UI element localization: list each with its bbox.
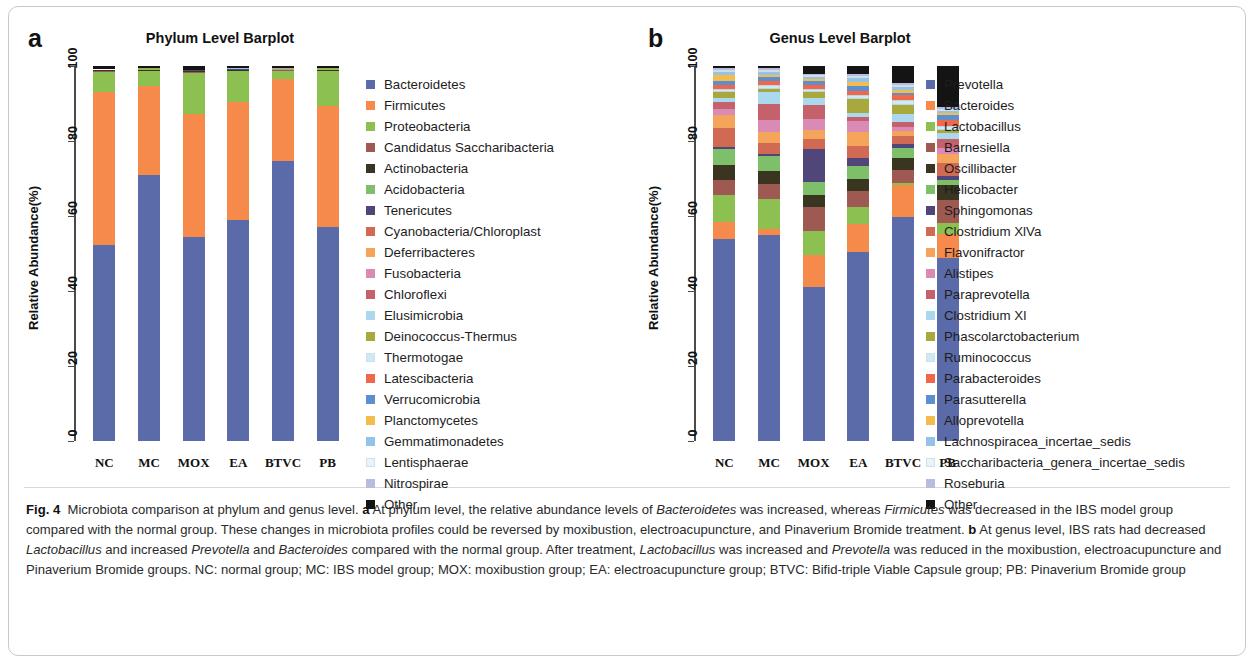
panel-a-title: Phylum Level Barplot — [80, 30, 360, 46]
legend-label: Lachnospiracea_incertae_sedis — [944, 435, 1131, 448]
legend-item: Paraprevotella — [922, 284, 1185, 305]
legend-color-swatch — [366, 332, 375, 341]
legend-label: Verrucomicrobia — [384, 393, 480, 406]
legend-color-swatch — [926, 80, 935, 89]
bar-segment — [758, 143, 780, 154]
legend-item: Flavonifractor — [922, 242, 1185, 263]
y-axis-tick — [68, 366, 74, 367]
bar-segment — [803, 207, 825, 231]
x-axis-label-btvc: BTVC — [881, 455, 926, 471]
bar-segment — [847, 224, 869, 251]
bar-segment — [758, 184, 780, 199]
panel-a-y-axis-line — [74, 66, 76, 441]
bar-segment — [93, 245, 115, 441]
bar-segment — [758, 156, 780, 171]
bar-segment — [892, 105, 914, 113]
stacked-bar-mox — [183, 66, 205, 441]
bar-segment — [138, 71, 160, 86]
bar-segment — [317, 106, 339, 228]
bar-segment — [713, 239, 735, 442]
bar-segment — [847, 191, 869, 207]
legend-item: Clostridium XlVa — [922, 221, 1185, 242]
legend-label: Paraprevotella — [944, 288, 1030, 301]
bar-segment — [183, 114, 205, 237]
legend-color-swatch — [366, 353, 375, 362]
stacked-bar-nc — [713, 66, 735, 441]
y-axis-tick-label: 0 — [66, 430, 80, 437]
y-axis-tick — [68, 291, 74, 292]
legend-item: Oscillibacter — [922, 158, 1185, 179]
bar-segment — [272, 71, 294, 79]
x-axis-label-mox: MOX — [171, 455, 216, 471]
legend-label: Chloroflexi — [384, 288, 447, 301]
bar-segment — [713, 180, 735, 195]
legend-item: Helicobacter — [922, 179, 1185, 200]
legend-color-swatch — [366, 164, 375, 173]
bar-segment — [892, 170, 914, 184]
legend-color-swatch — [926, 374, 935, 383]
legend-label: Bacteroides — [944, 99, 1014, 112]
legend-color-swatch — [366, 80, 375, 89]
legend-color-swatch — [926, 353, 935, 362]
legend-label: Prevotella — [944, 78, 1003, 91]
legend-color-swatch — [366, 374, 375, 383]
legend-item: Parabacteroides — [922, 368, 1185, 389]
legend-color-swatch — [926, 416, 935, 425]
x-axis-label-mc: MC — [127, 455, 172, 471]
stacked-bar-btvc — [272, 66, 294, 441]
panel-b-letter: b — [648, 24, 663, 53]
panel-a-legend: BacteroidetesFirmicutesProteobacteriaCan… — [362, 74, 554, 515]
legend-color-swatch — [926, 101, 935, 110]
bar-segment — [713, 102, 735, 110]
x-axis-label-mc: MC — [747, 455, 792, 471]
bar-segment — [803, 105, 825, 118]
y-axis-tick-label: 80 — [686, 126, 700, 140]
panel-a-plot-area: NCMCMOXEABTVCPB 020406080100 — [60, 60, 360, 480]
bar-segment — [713, 165, 735, 180]
legend-item: Deferribacteres — [362, 242, 554, 263]
legend-color-swatch — [366, 206, 375, 215]
legend-label: Barnesiella — [944, 141, 1010, 154]
legend-item: Bacteroides — [922, 95, 1185, 116]
legend-color-swatch — [366, 101, 375, 110]
panel-b-y-axis-label: Relative Abundance(%) — [646, 186, 661, 330]
y-axis-tick — [688, 141, 694, 142]
legend-item: Planctomycetes — [362, 410, 554, 431]
bar-segment — [227, 102, 249, 220]
panel-a-letter: a — [28, 24, 42, 53]
y-axis-tick — [68, 441, 74, 442]
legend-color-swatch — [926, 248, 935, 257]
y-axis-tick-label: 20 — [686, 351, 700, 365]
legend-label: Alloprevotella — [944, 414, 1024, 427]
legend-label: Bacteroidetes — [384, 78, 465, 91]
bar-segment — [892, 158, 914, 170]
bar-segment — [227, 71, 249, 102]
legend-label: Phascolarctobacterium — [944, 330, 1079, 343]
legend-color-swatch — [926, 458, 935, 467]
legend-label: Acidobacteria — [384, 183, 465, 196]
legend-item: Actinobacteria — [362, 158, 554, 179]
bar-segment — [713, 149, 735, 166]
legend-item: Roseburia — [922, 473, 1185, 494]
legend-color-swatch — [366, 290, 375, 299]
bar-segment — [803, 231, 825, 255]
y-axis-tick-label: 100 — [686, 48, 700, 69]
y-axis-tick-label: 40 — [686, 276, 700, 290]
figure-caption: Fig. 4 Microbiota comparison at phylum a… — [26, 500, 1230, 580]
legend-color-swatch — [926, 206, 935, 215]
legend-label: Deferribacteres — [384, 246, 475, 259]
legend-label: Candidatus Saccharibacteria — [384, 141, 554, 154]
y-axis-tick — [688, 291, 694, 292]
x-axis-label-mox: MOX — [791, 455, 836, 471]
legend-color-swatch — [926, 143, 935, 152]
legend-item: Phascolarctobacterium — [922, 326, 1185, 347]
legend-label: Fusobacteria — [384, 267, 461, 280]
legend-item: Alistipes — [922, 263, 1185, 284]
bar-segment — [317, 227, 339, 441]
legend-item: Fusobacteria — [362, 263, 554, 284]
y-axis-tick — [688, 216, 694, 217]
legend-item: Thermotogae — [362, 347, 554, 368]
legend-item: Latescibacteria — [362, 368, 554, 389]
legend-item: Parasutterella — [922, 389, 1185, 410]
stacked-bar-mox — [803, 66, 825, 441]
